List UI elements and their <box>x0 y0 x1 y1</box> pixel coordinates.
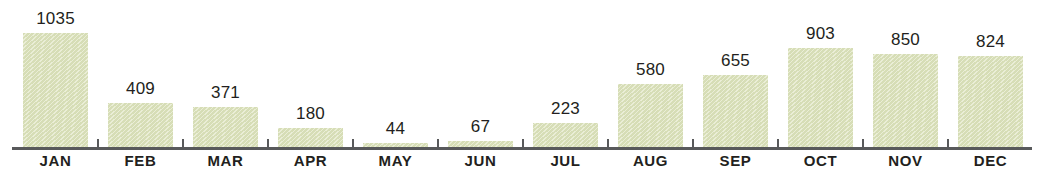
x-label-mar: MAR <box>183 152 268 169</box>
bar-group-jul: 223 <box>533 0 598 148</box>
bar-oct[interactable] <box>788 48 853 148</box>
bar-group-oct: 903 <box>788 0 853 148</box>
bar-value-label-aug: 580 <box>618 60 683 80</box>
bar-value-label-apr: 180 <box>278 104 343 124</box>
bar-mar[interactable] <box>193 107 258 148</box>
bar-sep[interactable] <box>703 75 768 148</box>
bar-group-dec: 824 <box>958 0 1023 148</box>
x-label-jan: JAN <box>13 152 98 169</box>
bar-feb[interactable] <box>108 103 173 148</box>
bar-group-jan: 1035 <box>23 0 88 148</box>
x-label-dec: DEC <box>948 152 1033 169</box>
bar-group-apr: 180 <box>278 0 343 148</box>
bar-apr[interactable] <box>278 128 343 148</box>
bar-value-label-jun: 67 <box>448 117 513 137</box>
bar-jul[interactable] <box>533 123 598 148</box>
bar-group-sep: 655 <box>703 0 768 148</box>
bar-group-nov: 850 <box>873 0 938 148</box>
bar-group-feb: 409 <box>108 0 173 148</box>
axis-tick <box>862 139 864 148</box>
bar-value-label-nov: 850 <box>873 30 938 50</box>
x-axis-labels: JANFEBMARAPRMAYJUNJULAUGSEPOCTNOVDEC <box>0 152 1040 184</box>
bar-group-aug: 580 <box>618 0 683 148</box>
bar-value-label-mar: 371 <box>193 83 258 103</box>
bar-value-label-sep: 655 <box>703 51 768 71</box>
bar-nov[interactable] <box>873 54 938 148</box>
x-label-aug: AUG <box>608 152 693 169</box>
plot-area: 10354093711804467223580655903850824 <box>0 0 1040 148</box>
axis-tick <box>437 139 439 148</box>
bar-value-label-feb: 409 <box>108 79 173 99</box>
axis-tick <box>607 139 609 148</box>
bar-aug[interactable] <box>618 84 683 148</box>
bar-dec[interactable] <box>958 56 1023 148</box>
x-label-feb: FEB <box>98 152 183 169</box>
axis-tick <box>267 139 269 148</box>
bar-value-label-oct: 903 <box>788 24 853 44</box>
bar-chart: 10354093711804467223580655903850824 JANF… <box>0 0 1040 184</box>
x-label-jul: JUL <box>523 152 608 169</box>
axis-tick <box>692 139 694 148</box>
bar-value-label-dec: 824 <box>958 32 1023 52</box>
bar-group-jun: 67 <box>448 0 513 148</box>
x-label-apr: APR <box>268 152 353 169</box>
axis-tick <box>947 139 949 148</box>
axis-tick <box>97 139 99 148</box>
axis-tick <box>522 139 524 148</box>
bar-value-label-jul: 223 <box>533 99 598 119</box>
bar-jan[interactable] <box>23 33 88 148</box>
x-label-oct: OCT <box>778 152 863 169</box>
bar-group-may: 44 <box>363 0 428 148</box>
bar-value-label-may: 44 <box>363 119 428 139</box>
bar-value-label-jan: 1035 <box>23 9 88 29</box>
axis-tick <box>777 139 779 148</box>
bar-group-mar: 371 <box>193 0 258 148</box>
x-label-nov: NOV <box>863 152 948 169</box>
axis-tick <box>352 139 354 148</box>
x-label-may: MAY <box>353 152 438 169</box>
x-label-jun: JUN <box>438 152 523 169</box>
x-label-sep: SEP <box>693 152 778 169</box>
axis-tick <box>182 139 184 148</box>
